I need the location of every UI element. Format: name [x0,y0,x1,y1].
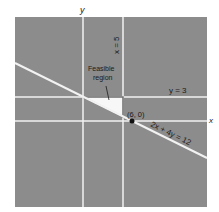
plot-background [15,17,207,207]
point-6-0 [130,119,135,124]
region-label-line1: Feasible [88,65,115,72]
y-axis-label: y [79,5,85,15]
feasible-region-diagram: y x x = 5 y = 3 Feasible region (6, 0) 2… [0,0,219,212]
x-axis-label: x [208,116,214,125]
point-label: (6, 0) [127,110,145,119]
region-label-line2: region [93,74,113,82]
x-equals-5-label: x = 5 [112,36,121,54]
y-equals-3-label: y = 3 [169,86,187,95]
